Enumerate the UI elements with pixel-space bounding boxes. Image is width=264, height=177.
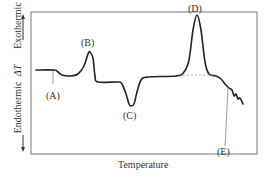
label-a: (A) bbox=[46, 90, 60, 101]
label-c: (C) bbox=[123, 110, 136, 121]
label-b: (B) bbox=[81, 37, 94, 48]
label-e: (E) bbox=[217, 146, 230, 157]
endothermic-arrowhead bbox=[21, 147, 25, 152]
y-label-endothermic: Endothermic bbox=[12, 78, 23, 138]
label-d: (D) bbox=[188, 3, 202, 14]
plot-frame bbox=[31, 12, 257, 154]
leader-e bbox=[225, 88, 228, 146]
dta-curve bbox=[36, 15, 243, 106]
x-axis-label: Temperature bbox=[118, 159, 168, 170]
y-label-exothermic: Exothermic bbox=[12, 1, 23, 51]
